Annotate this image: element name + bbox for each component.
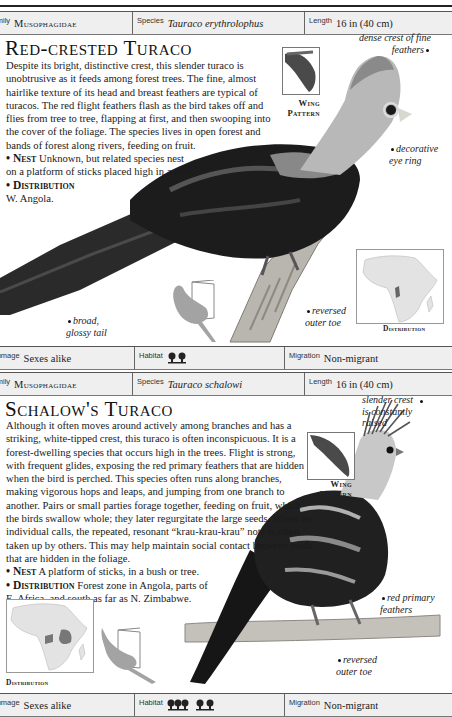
entry-2-info-band: Family Musophagidae Species Tauraco scha… [0, 372, 452, 396]
bullet: • [6, 179, 13, 191]
distribution-map-label: Distribution [383, 324, 425, 333]
wing-pattern-label: Wing Pattern [280, 98, 320, 118]
species-cell: Species Tauraco schalowi [133, 373, 305, 395]
wing-label-line2: Pattern [304, 489, 352, 499]
annotation-crest: slender crest is constantly raised [362, 394, 422, 429]
bullet: • [6, 152, 13, 164]
entry-1-title: Red-crested Turaco [5, 36, 192, 61]
description-text: Despite its bright, distinctive crest, t… [6, 59, 276, 152]
plumage-value: Sexes alike [24, 700, 72, 711]
annotation-text: dense crest of fine feathers [359, 32, 431, 55]
annotation-toe: reversed outer toe [336, 654, 386, 677]
annotation-text: decorative eye ring [389, 143, 438, 166]
species-value: Tauraco schalowi [168, 379, 243, 390]
bullet: • [6, 565, 13, 577]
length-value: 16 in (40 cm) [336, 18, 393, 29]
family-value: Musophagidae [14, 18, 77, 29]
entry-1-description: Despite its bright, distinctive crest, t… [6, 59, 276, 205]
species-label: Species [137, 16, 164, 25]
annotation-text: reversed outer toe [305, 305, 346, 328]
annotation-text: red primary feathers [380, 592, 435, 615]
distribution-map [356, 249, 444, 324]
migration-label: Migration [289, 698, 320, 707]
pointer-dot [307, 310, 310, 313]
entry-2-description: Although it often moves around actively … [6, 419, 312, 605]
family-value: Musophagidae [14, 379, 77, 390]
length-value: 16 in (40 cm) [336, 379, 393, 390]
habitat-label: Habitat [139, 351, 163, 360]
pointer-dot [426, 49, 429, 52]
description-text: Although it often moves around actively … [6, 419, 312, 565]
wing-label-line1: Wing [280, 98, 320, 108]
length-cell: Length 16 in (40 cm) [305, 373, 452, 395]
nest-paragraph: • Nest Unknown, but related species nest… [6, 152, 196, 179]
nest-paragraph: • Nest A platform of sticks, in a bush o… [6, 565, 312, 578]
entry-2-footer-band: Plumage Sexes alike Habitat Migration No… [0, 693, 452, 717]
pointer-dot [382, 597, 385, 600]
pointer-dot [420, 400, 423, 403]
nest-label: Nest [13, 152, 36, 164]
wing-pattern-label: Wing Pattern [304, 479, 352, 499]
distribution-label: Distribution [13, 579, 75, 591]
family-label: Family [0, 16, 10, 25]
wing-icon [308, 433, 354, 479]
annotation-primaries: red primary feathers [380, 592, 450, 615]
length-label: Length [309, 16, 332, 25]
forest-edge-icon [167, 352, 187, 364]
annotation-text: reversed outer toe [336, 654, 377, 677]
size-comparison-silhouette-icon [168, 280, 230, 342]
nest-text: A platform of sticks, in a bush or tree. [38, 566, 199, 577]
distribution-label: Distribution [13, 179, 75, 191]
africa-map-icon [357, 250, 443, 323]
plumage-cell: Plumage Sexes alike [0, 694, 135, 716]
wing-label-line1: Wing [304, 479, 352, 489]
migration-value: Non-migrant [324, 353, 378, 364]
size-comparison-silhouette-icon [98, 626, 164, 688]
migration-label: Migration [289, 351, 320, 360]
entry-1-footer-band: Plumage Sexes alike Habitat Migration No… [0, 346, 452, 370]
annotation-crest: dense crest of fine feathers [341, 32, 431, 55]
annotation-tail: broad, glossy tail [66, 315, 126, 338]
species-value: Tauraco erythrolophus [168, 18, 264, 29]
habitat-cell: Habitat [135, 694, 285, 716]
plumage-value: Sexes alike [24, 353, 72, 364]
pointer-dot [68, 320, 71, 323]
migration-cell: Migration Non-migrant [285, 347, 452, 369]
habitat-cell: Habitat [135, 347, 285, 369]
nest-label: Nest [13, 565, 36, 577]
top-rule [0, 5, 452, 7]
africa-map-icon [7, 600, 93, 672]
wing-label-line2: Pattern [280, 108, 320, 118]
wing-pattern-thumbnail [307, 432, 355, 480]
length-label: Length [309, 377, 332, 386]
plumage-label: Plumage [0, 351, 20, 360]
annotation-text: broad, glossy tail [66, 315, 107, 338]
migration-cell: Migration Non-migrant [285, 694, 452, 716]
wing-pattern-thumbnail [282, 47, 320, 95]
annotation-eye-ring: decorative eye ring [389, 143, 451, 166]
habitat-label: Habitat [139, 698, 163, 707]
distribution-heading: • Distribution [6, 179, 276, 192]
migration-value: Non-migrant [324, 700, 378, 711]
annotation-toe: reversed outer toe [305, 305, 355, 328]
forest-edge-icon [195, 699, 215, 711]
pointer-dot [391, 148, 394, 151]
annotation-text: slender crest is constantly raised [362, 394, 413, 428]
distribution-map-label: Distribution [6, 678, 48, 687]
distribution-map [6, 599, 94, 673]
distribution-text: W. Angola. [6, 192, 276, 205]
species-label: Species [137, 377, 164, 386]
wing-icon [283, 48, 319, 94]
plumage-cell: Plumage Sexes alike [0, 347, 135, 369]
family-cell: Family Musophagidae [0, 373, 133, 395]
family-label: Family [0, 377, 10, 386]
dense-forest-icon [167, 699, 189, 711]
bullet: • [6, 579, 13, 591]
pointer-dot [338, 659, 341, 662]
plumage-label: Plumage [0, 698, 20, 707]
